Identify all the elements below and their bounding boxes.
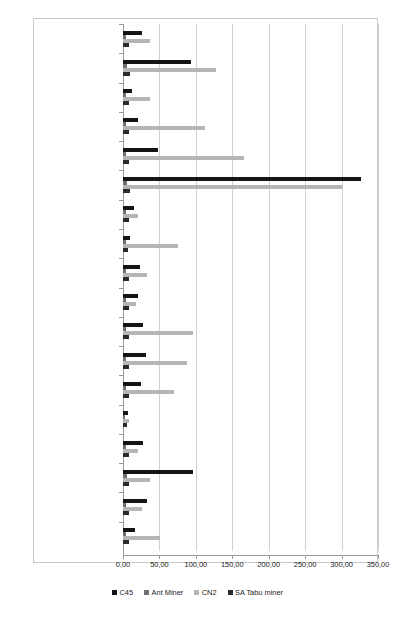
bar-sa-tabu-miner [123,453,129,457]
bar-c45 [123,323,143,327]
chart-category-row: tic-tac-toe [123,463,378,492]
chart-category-row: Haberman [123,229,378,258]
bar-sa-tabu-miner [123,101,129,105]
bar-cn2 [123,331,193,335]
bar-sa-tabu-miner [123,160,129,164]
legend-item: Ant Miner [144,588,183,597]
bar-sa-tabu-miner [123,277,129,281]
bar-cn2 [123,126,205,130]
chart-category-row: ANN [123,346,378,375]
x-axis-tick [378,555,379,559]
bar-c45 [123,60,191,64]
chart-category-row: Heart [123,53,378,82]
bar-c45 [123,499,147,503]
bar-sa-tabu-miner [123,335,129,339]
x-axis-tick [342,555,343,559]
chart-category-row: Parkinson [123,24,378,53]
bar-c45 [123,441,143,445]
legend-label: CN2 [202,588,217,597]
bar-sa-tabu-miner [123,218,129,222]
bar-sa-tabu-miner [123,189,130,193]
chart-category-row: PostOp [123,200,378,229]
chart-legend: C45Ant MinerCN2SA Tabu miner [0,588,395,597]
x-axis-tick-label: 250,00 [294,560,317,569]
chart-category-row: Hepatitis [123,405,378,434]
bar-c45 [123,148,158,152]
bar-sa-tabu-miner [123,423,127,427]
legend-item: C45 [112,588,133,597]
x-axis-tick [159,555,160,559]
legend-label: SA Tabu miner [235,588,283,597]
bar-sa-tabu-miner [123,365,129,369]
bar-cn2 [123,361,187,365]
chart-category-row: BUPA [123,317,378,346]
plot-area: ParkinsonHeartTransfusionMamographyPimaN… [123,24,378,551]
chart-category-row: Echocardiogram [123,258,378,287]
chart-category-row: Ljubljana breast cancer [123,522,378,551]
chart-category-row: Mamography [123,112,378,141]
x-axis-tick-label: 150,00 [221,560,244,569]
x-axis-tick-label: 0,00 [116,560,130,569]
chart-category-row: Pima [123,141,378,170]
bar-sa-tabu-miner [123,130,129,134]
legend-label: Ant Miner [152,588,184,597]
bar-chart-figure: ParkinsonHeartTransfusionMamographyPimaN… [0,0,395,627]
x-axis-tick-label: 350,00 [367,560,390,569]
chart-category-row: Wisconsin breast cancer [123,492,378,521]
x-axis-tick [196,555,197,559]
bar-cn2 [123,390,174,394]
bar-sa-tabu-miner [123,511,129,515]
legend-item: SA Tabu miner [228,588,283,597]
gridline [378,24,379,551]
legend-item: CN2 [194,588,216,597]
bar-sa-tabu-miner [123,306,129,310]
x-axis-tick-labels: 0,0050,00100,00150,00200,00250,00300,003… [0,560,395,574]
chart-category-row: AllBP [123,375,378,404]
bar-cn2 [123,185,342,189]
bar-cn2 [123,156,244,160]
x-axis-tick-label: 200,00 [257,560,280,569]
bar-c45 [123,353,146,357]
legend-label: C45 [120,588,134,597]
chart-category-row: Nursery [123,170,378,199]
bar-c45 [123,177,361,181]
x-axis-tick [123,555,124,559]
x-axis-tick-label: 50,00 [150,560,169,569]
x-axis-tick-label: 100,00 [185,560,208,569]
bar-sa-tabu-miner [123,394,129,398]
x-axis-tick [305,555,306,559]
legend-swatch-icon [144,590,149,595]
x-axis-tick [232,555,233,559]
bar-sa-tabu-miner [123,72,130,76]
legend-swatch-icon [112,590,117,595]
legend-swatch-icon [194,590,199,595]
bar-sa-tabu-miner [123,43,129,47]
chart-category-row: Transfusion [123,83,378,112]
x-axis-line [123,555,378,556]
bar-cn2 [123,244,178,248]
legend-swatch-icon [228,590,233,595]
bar-sa-tabu-miner [123,482,129,486]
chart-category-row: Dermatology [123,434,378,463]
bar-cn2 [123,68,216,72]
x-axis-tick-label: 300,00 [330,560,353,569]
bar-sa-tabu-miner [123,540,129,544]
x-axis-tick [269,555,270,559]
bar-sa-tabu-miner [123,248,128,252]
bar-c45 [123,470,193,474]
chart-category-row: New Tyroid [123,288,378,317]
